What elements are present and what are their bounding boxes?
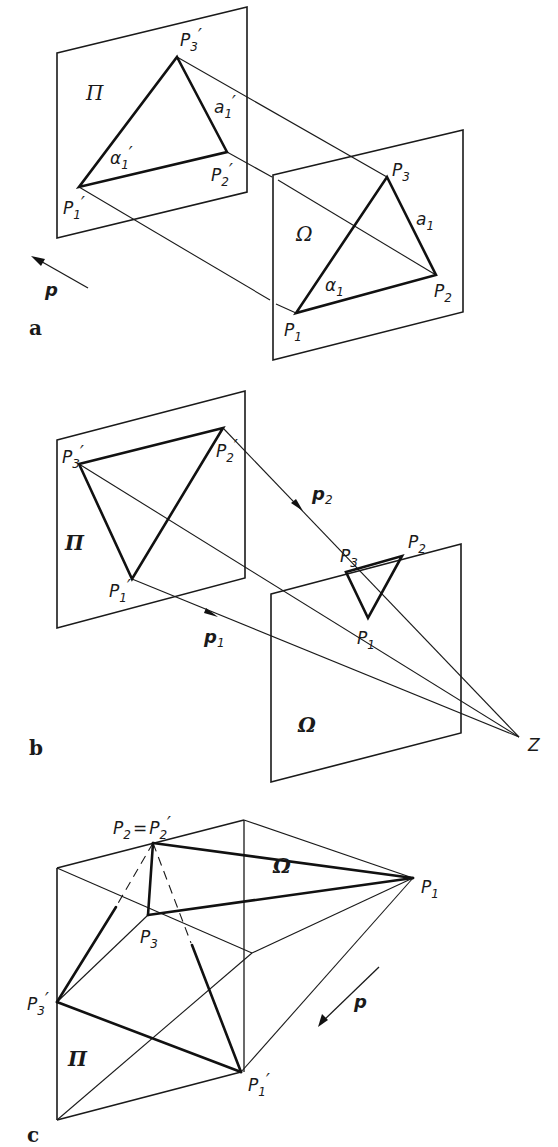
label-omega: Ω <box>295 222 313 246</box>
panel-label-b: b <box>29 736 43 760</box>
arrowhead-p1-icon <box>204 608 218 617</box>
label-p1-prime: P1′ <box>109 576 131 605</box>
label-p3: P3 <box>140 927 158 951</box>
label-omega: Ω <box>272 854 291 878</box>
panel-c: P2=P2′ P3 P1 P3′ P1′ Π Ω p c <box>27 813 439 1147</box>
hidden-line-left <box>117 843 153 905</box>
projection-line-p2-a <box>227 152 272 177</box>
panel-a: Π Ω P3′ P2′ P1′ a1′ α1′ P3 P2 P1 a1 α1 p… <box>29 7 463 360</box>
panel-label-c: c <box>27 1123 39 1147</box>
label-p2-prime: P2′ <box>216 436 238 465</box>
projection-line-p1-b <box>276 304 296 313</box>
label-pi: Π <box>85 81 104 105</box>
label-p1-prime: P1′ <box>63 193 85 222</box>
panel-label-a: a <box>29 316 42 340</box>
object-plane-omega <box>271 544 461 782</box>
object-triangle <box>296 177 436 313</box>
label-angle-alpha1: α1 <box>325 275 344 299</box>
label-p2-equals-p2-prime: P2=P2′ <box>113 813 171 842</box>
image-triangle <box>79 428 223 579</box>
image-plane-pi <box>57 391 245 628</box>
label-p3-prime: P3′ <box>27 989 49 1018</box>
image-plane-pi <box>57 7 247 238</box>
ray-p2 <box>223 428 519 737</box>
label-p1: P1 <box>421 877 439 901</box>
label-p3: P3 <box>392 160 410 184</box>
label-p3: P3 <box>340 546 358 570</box>
label-direction-p: p <box>353 991 367 1012</box>
label-p1: P1 <box>357 628 375 652</box>
arrowhead-icon <box>318 1014 328 1027</box>
label-center-z: Z <box>527 735 540 755</box>
edge-p2prime-p1prime-visible <box>192 945 241 1072</box>
direction-arrow-p <box>322 967 379 1022</box>
label-p1-prime: P1′ <box>248 1070 270 1099</box>
panel-b: Π Ω P3′ P2′ P1′ P3 P2 P1 Z p2 p1 b <box>29 391 540 782</box>
projection-figure: Π Ω P3′ P2′ P1′ a1′ α1′ P3 P2 P1 a1 α1 p… <box>0 0 558 1147</box>
label-p1: P1 <box>284 320 302 344</box>
label-p3-prime: P3′ <box>180 25 202 54</box>
edge-p2-p3 <box>148 843 153 915</box>
label-pi: Π <box>67 1047 88 1071</box>
label-p2-prime: P2′ <box>211 160 233 189</box>
omega-right-edge <box>241 878 413 1072</box>
label-omega: Ω <box>297 713 316 737</box>
projection-line-p1-a <box>79 187 270 300</box>
omega-top-edge <box>244 820 413 878</box>
hidden-line-right <box>153 843 191 943</box>
label-side-a1-prime: a1′ <box>214 92 236 121</box>
label-direction-p1: p1 <box>203 626 225 650</box>
label-direction-p: p <box>44 279 58 300</box>
label-side-a1: a1 <box>416 209 434 233</box>
label-angle-alpha1-prime: α1′ <box>110 143 133 172</box>
label-p2: P2 <box>434 281 452 305</box>
label-pi: Π <box>64 531 85 555</box>
image-triangle <box>79 57 227 187</box>
arrowhead-icon <box>31 256 45 266</box>
label-direction-p2: p2 <box>311 483 333 507</box>
label-p2: P2 <box>408 532 426 556</box>
